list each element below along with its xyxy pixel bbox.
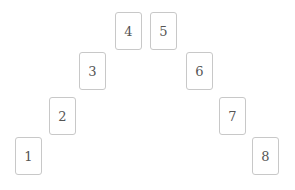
card-7: 7 xyxy=(219,97,246,135)
card-label: 2 xyxy=(58,109,66,124)
card-6: 6 xyxy=(186,52,213,90)
card-label: 1 xyxy=(24,149,32,164)
card-2: 2 xyxy=(49,97,76,135)
card-3: 3 xyxy=(79,52,106,90)
card-label: 6 xyxy=(195,64,203,79)
card-4: 4 xyxy=(115,12,142,50)
card-label: 7 xyxy=(228,109,236,124)
card-label: 4 xyxy=(124,24,132,39)
card-label: 3 xyxy=(88,64,96,79)
card-8: 8 xyxy=(252,137,279,175)
card-label: 8 xyxy=(261,149,269,164)
card-5: 5 xyxy=(150,12,177,50)
card-label: 5 xyxy=(159,24,167,39)
card-1: 1 xyxy=(15,137,42,175)
